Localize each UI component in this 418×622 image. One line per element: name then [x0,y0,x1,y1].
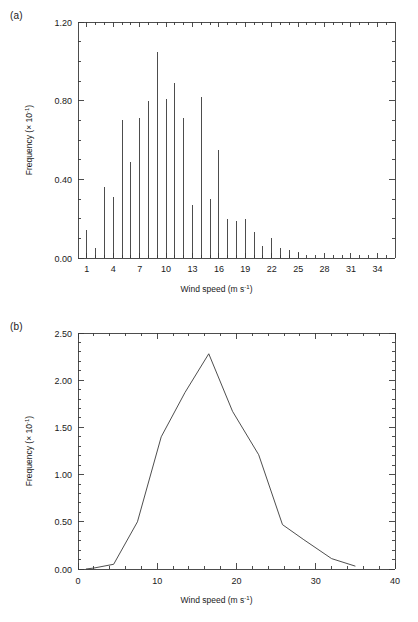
x-tick-label: 10 [152,576,162,586]
x-axis-title: Wind speed (m s-1) [181,595,253,605]
y-tick-label: 0.50 [54,517,72,527]
y-axis-title: Frequency (× 10-1) [24,416,34,486]
y-tick-label: 1.50 [54,423,72,433]
x-tick-label: 20 [231,576,241,586]
x-axis-title: Wind speed (m s-1) [181,284,253,294]
y-tick-label: 1.00 [54,470,72,480]
x-tick-label: 7 [137,264,142,274]
x-tick-label: 34 [372,264,382,274]
wind-speed-figure: (a) 1471013161922252831340.000.400.801.2… [0,0,418,622]
panel-b-axis-titles: Wind speed (m s-1)Frequency (× 10-1) [24,416,253,605]
x-tick-label: 22 [267,264,277,274]
x-tick-label: 30 [311,576,321,586]
x-tick-label: 10 [161,264,171,274]
panel-a-tick-labels: 1471013161922252831340.000.400.801.20 [54,18,382,275]
x-tick-label: 16 [214,264,224,274]
x-tick-label: 31 [346,264,356,274]
y-tick-label: 0.80 [54,96,72,106]
y-tick-label: 2.50 [54,329,72,339]
x-tick-label: 4 [111,264,116,274]
panel-a-plot: 1471013161922252831340.000.400.801.20 Wi… [0,0,418,311]
panel-b-lineplot: (b) 0102030400.000.501.001.502.002.50 Wi… [0,311,418,622]
y-tick-label: 0.00 [54,254,72,264]
x-tick-label: 1 [84,264,89,274]
y-tick-label: 1.20 [54,18,72,28]
x-tick-label: 25 [293,264,303,274]
x-tick-label: 0 [75,576,80,586]
panel-b-tick-labels: 0102030400.000.501.001.502.002.50 [54,329,400,587]
y-tick-label: 2.00 [54,376,72,386]
y-tick-label: 0.00 [54,565,72,575]
y-axis-title: Frequency (× 10-1) [24,105,34,175]
panel-b-plot: 0102030400.000.501.001.502.002.50 Wind s… [0,311,418,622]
panel-b-curve [86,354,355,569]
y-tick-label: 0.40 [54,175,72,185]
x-tick-label: 40 [390,576,400,586]
panel-a-needles [87,52,298,259]
x-tick-label: 28 [320,264,330,274]
x-tick-label: 19 [240,264,250,274]
frequency-line [86,354,355,569]
panel-b-axes [78,333,395,569]
x-tick-label: 13 [187,264,197,274]
panel-a-histogram: (a) 1471013161922252831340.000.400.801.2… [0,0,418,311]
